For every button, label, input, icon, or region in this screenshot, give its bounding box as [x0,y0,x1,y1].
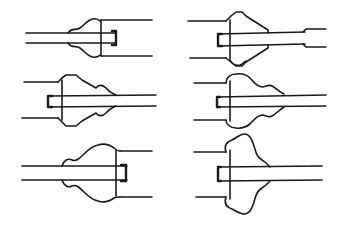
figure-5-bottom-left [22,144,152,202]
figure-2-top-right [188,12,326,66]
figure-3-middle-left [22,75,156,126]
figure-6-bottom-right [194,134,322,214]
pipe-joint-diagram [0,0,348,234]
figure-1-top-left [26,19,152,57]
figure-4-middle-right [194,60,326,128]
